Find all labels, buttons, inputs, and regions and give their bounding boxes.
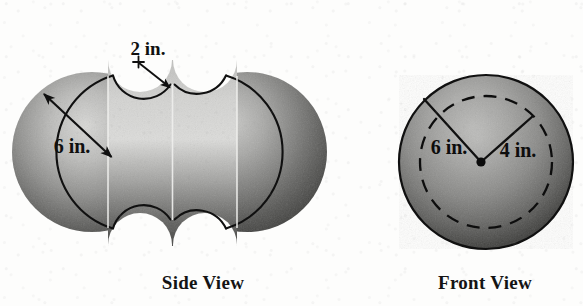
front-view-center-dot [476,157,485,166]
sphere-radius-label: 6 in. [54,135,91,157]
side-view-caption: Side View [118,272,288,294]
groove-depth-label: 2 in. [131,38,166,59]
groove-radius-label: 4 in. [500,139,537,161]
front-view-caption: Front View [400,272,570,294]
side-view-group: 2 in. 6 in. [10,26,340,280]
front-view-group: 6 in. 4 in. [399,75,573,249]
outer-radius-label: 6 in. [431,136,468,158]
two-view-solid-figure: 2 in. 6 in. 6 in. 4 in. [0,0,583,306]
